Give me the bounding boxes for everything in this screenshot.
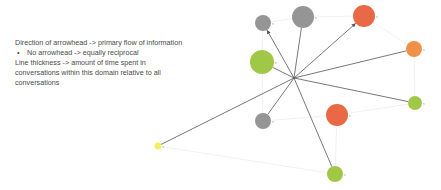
- node-orange-right: [406, 41, 422, 57]
- node-label: n: [376, 15, 378, 19]
- node-green-bottom: [327, 166, 343, 182]
- network-graph: nnnnnnnnnn: [0, 0, 441, 190]
- edge-to-orange-right: [294, 51, 406, 78]
- node-label: n: [272, 22, 274, 26]
- node-yellow-left: [155, 143, 162, 150]
- node-green-right: [408, 96, 422, 110]
- faint-edge: [414, 49, 415, 103]
- node-red-top: [353, 5, 375, 27]
- node-gray-large-top: [292, 6, 314, 28]
- node-gray-bottom-left: [255, 113, 271, 129]
- node-gray-small-top: [255, 15, 271, 31]
- edge-to-gray-large-top: [294, 28, 301, 78]
- node-red-center: [326, 104, 348, 126]
- edges: [161, 23, 408, 166]
- node-label: n: [344, 173, 346, 177]
- faint-edge: [158, 146, 335, 174]
- faint-edge: [263, 115, 337, 121]
- nodes: nnnnnnnnnn: [155, 5, 426, 182]
- node-label: n: [275, 61, 277, 65]
- edge-to-green-bottom: [294, 78, 332, 167]
- edge-to-red-top: [294, 23, 356, 78]
- node-label: n: [349, 114, 351, 118]
- edge-to-yellow-left: [161, 78, 294, 144]
- node-label: n: [272, 120, 274, 124]
- node-label: n: [423, 48, 425, 52]
- edge-to-gray-bottom-left: [268, 78, 294, 115]
- node-label: n: [423, 102, 425, 106]
- node-green-large-left: [250, 50, 274, 74]
- edge-to-green-right: [294, 78, 408, 102]
